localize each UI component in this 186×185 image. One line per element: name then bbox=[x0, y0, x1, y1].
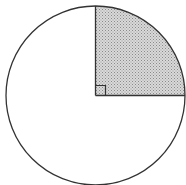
shaded-quarter-sector bbox=[96, 6, 186, 96]
circle-diagram bbox=[0, 0, 186, 185]
